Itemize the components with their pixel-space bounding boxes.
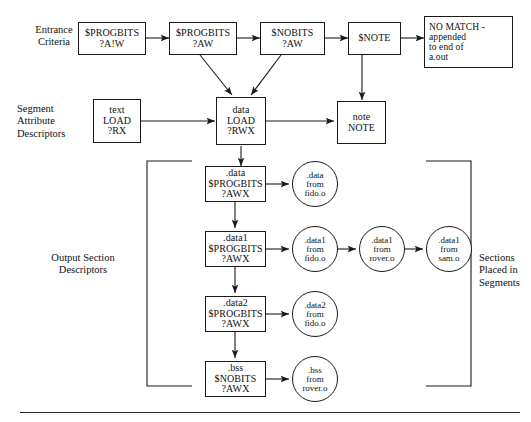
node-line-2: NOTE [348, 123, 375, 134]
node-line-1: $NOTE [358, 33, 390, 44]
bracket-output-section-descriptors [147, 161, 192, 386]
row-label-segment-line1: Segment [17, 103, 97, 115]
bottom-divider [20, 412, 520, 413]
entrance-criteria-no-match[interactable]: NO MATCH - appended to end of a.out [424, 16, 513, 68]
circle-line-3: rover.o [369, 254, 394, 263]
node-line-3: ?RWX [227, 126, 255, 137]
output-section-descriptor-data2[interactable]: .data2 $PROGBITS ?AWX [205, 296, 266, 332]
row-label-osd-line2: Descriptors [28, 264, 138, 276]
node-line-1: text [109, 105, 124, 116]
node-line-2: ?AW [282, 39, 303, 50]
row-label-segment-line3: Descriptors [17, 128, 97, 140]
arrow-ec3-data-segment [251, 55, 281, 95]
row-label-segment-attribute-descriptors: Segment Attribute Descriptors [17, 103, 97, 140]
row-label-sections-line2: Placed in [479, 264, 531, 276]
section-circle-data2-fido[interactable]: .data2 from fido.o [292, 291, 338, 337]
node-line-1: $PROGBITS [176, 28, 230, 39]
node-line-2: ?A!W [100, 39, 125, 50]
entrance-criteria-note[interactable]: $NOTE [348, 22, 401, 55]
node-line-1: .data1 [223, 233, 248, 244]
row-label-segment-line2: Attribute [17, 115, 97, 127]
node-line-1: $NOBITS [272, 28, 314, 39]
node-line-1: .data2 [223, 298, 248, 309]
bracket-sections-placed-in-segments [426, 161, 471, 386]
row-label-sections-line3: Segments [479, 277, 531, 289]
node-line-3: ?AWX [222, 319, 250, 330]
section-circle-data1-rover[interactable]: .data1 from rover.o [359, 226, 405, 272]
circle-line-3: fido.o [304, 189, 325, 198]
entrance-criteria-progbits-anw[interactable]: $PROGBITS ?A!W [78, 22, 146, 55]
row-label-output-section-descriptors: Output Section Descriptors [28, 252, 138, 277]
node-line-1: NO MATCH - [429, 22, 485, 32]
output-section-descriptor-data1[interactable]: .data1 $PROGBITS ?AWX [205, 231, 266, 267]
node-line-3: ?AWX [222, 189, 250, 200]
node-line-2: appended [429, 32, 466, 42]
output-section-descriptor-bss[interactable]: .bss $NOBITS ?AWX [205, 361, 266, 397]
circle-line-3: fido.o [304, 319, 325, 328]
row-label-sections-placed-in-segments: Sections Placed in Segments [479, 252, 531, 289]
node-line-1: .data [226, 168, 246, 179]
circle-line-3: rover.o [302, 384, 327, 393]
node-line-1: .bss [228, 363, 244, 374]
arrow-ec2-data-segment [200, 55, 232, 95]
section-circle-data1-sam[interactable]: .data1 from sam.o [426, 226, 472, 272]
node-line-1: data [232, 105, 249, 116]
segment-descriptor-text[interactable]: text LOAD ?RX [93, 99, 141, 143]
segment-descriptor-note[interactable]: note NOTE [337, 101, 386, 144]
output-section-descriptor-data[interactable]: .data $PROGBITS ?AWX [205, 166, 266, 202]
node-line-3: ?AWX [222, 384, 250, 395]
section-circle-data-fido[interactable]: .data from fido.o [292, 161, 338, 207]
node-line-3: ?AWX [222, 254, 250, 265]
row-label-sections-line1: Sections [479, 252, 531, 264]
segment-descriptor-data[interactable]: data LOAD ?RWX [216, 97, 266, 145]
circle-line-3: sam.o [438, 254, 459, 263]
diagram-canvas: Entrance Criteria Segment Attribute Desc… [0, 0, 531, 422]
entrance-criteria-progbits-aw[interactable]: $PROGBITS ?AW [169, 22, 237, 55]
node-line-1: $PROGBITS [85, 28, 139, 39]
node-line-3: ?RX [108, 126, 127, 137]
section-circle-bss-rover[interactable]: .bss from rover.o [292, 356, 338, 402]
node-line-1: note [353, 112, 371, 123]
node-line-3: to end of [429, 42, 464, 52]
node-line-4: a.out [429, 52, 448, 62]
node-line-2: ?AW [193, 39, 214, 50]
circle-line-3: fido.o [304, 254, 325, 263]
row-label-osd-line1: Output Section [28, 252, 138, 264]
entrance-criteria-nobits-aw[interactable]: $NOBITS ?AW [260, 22, 325, 55]
section-circle-data1-fido[interactable]: .data1 from fido.o [292, 226, 338, 272]
